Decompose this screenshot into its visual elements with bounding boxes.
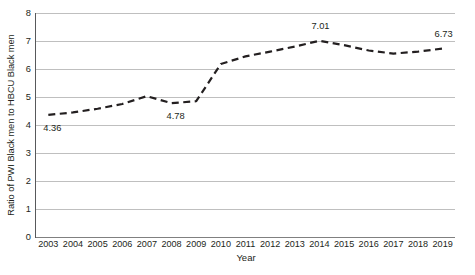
y-tick-label: 8 xyxy=(7,8,31,18)
y-tick-label: 6 xyxy=(7,64,31,74)
x-axis-title: Year xyxy=(36,252,456,263)
y-tick-label: 0 xyxy=(7,232,31,242)
gridline-0 xyxy=(36,237,455,238)
line-chart: Ratio of PWI Black men to HBCU Black men… xyxy=(0,0,475,275)
y-tick-label: 7 xyxy=(7,36,31,46)
x-tick-label: 2019 xyxy=(426,239,460,249)
plot-area: 4.364.787.016.73 xyxy=(36,13,455,237)
y-tick-label: 5 xyxy=(7,92,31,102)
y-tick-label: 4 xyxy=(7,120,31,130)
data-point-label-2014: 7.01 xyxy=(311,21,329,31)
data-series-line xyxy=(36,13,455,237)
y-axis-tick-labels: 012345678 xyxy=(0,13,31,237)
data-point-label-2003: 4.36 xyxy=(43,123,61,133)
y-tick-label: 3 xyxy=(7,148,31,158)
y-tick-label: 1 xyxy=(7,204,31,214)
x-axis-tick-labels: 2003200420052006200720082009201020112012… xyxy=(36,239,455,253)
y-tick-label: 2 xyxy=(7,176,31,186)
data-point-label-2019: 6.73 xyxy=(435,29,453,39)
data-point-label-2008: 4.78 xyxy=(166,111,184,121)
